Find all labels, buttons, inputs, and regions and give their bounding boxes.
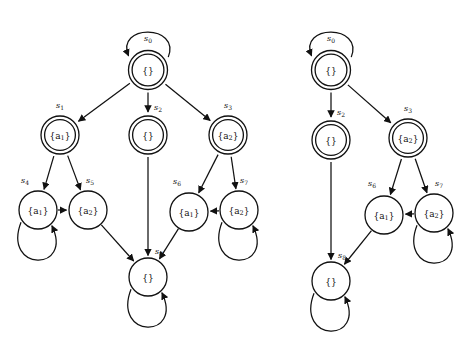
node-set-label: {a2}: [398, 134, 419, 145]
node-right-automaton-s8[interactable]: {}: [312, 262, 350, 300]
edge-s1-to-s4: [44, 156, 54, 189]
node-left-automaton-s7[interactable]: {a2}: [220, 191, 258, 229]
node-right-automaton-s7[interactable]: {a2}: [415, 194, 453, 232]
node-left-automaton-s1[interactable]: {a1}: [41, 116, 79, 154]
edge-s1-to-s5: [68, 156, 81, 190]
node-set-label: {}: [325, 66, 336, 76]
state-name-label-s6: s6: [173, 177, 181, 187]
node-set-label: {a1}: [179, 208, 200, 219]
state-name-label-s7: s7: [435, 179, 443, 189]
node-right-automaton-s3[interactable]: {a2}: [389, 119, 427, 157]
node-set-label: {}: [142, 273, 153, 283]
node-right-automaton-s2[interactable]: {}: [312, 121, 350, 159]
state-name-label-s8: s8: [155, 247, 163, 257]
state-name-label-s0: s0: [327, 34, 335, 44]
state-name-label-s3: s3: [224, 101, 232, 111]
edge-s3-to-s6: [199, 155, 218, 193]
node-set-label: {a2}: [229, 206, 250, 217]
edge-s3-to-s6: [390, 159, 401, 194]
edges-layer: [18, 32, 452, 331]
node-left-automaton-s3[interactable]: {a2}: [209, 116, 247, 154]
node-set-label: {a1}: [374, 211, 395, 222]
node-set-label: {a1}: [28, 206, 49, 217]
node-set-label: {}: [325, 277, 336, 287]
edge-s0-to-s1: [79, 83, 130, 121]
edge-s0-to-s3: [165, 84, 210, 120]
state-name-label-s4: s4: [21, 176, 29, 186]
edge-s3-to-s7: [415, 159, 427, 193]
node-set-label: {}: [142, 131, 153, 141]
node-right-automaton-s0[interactable]: {}: [312, 51, 351, 90]
node-left-automaton-s6[interactable]: {a1}: [170, 193, 208, 231]
node-left-automaton-s0[interactable]: {}: [129, 51, 168, 90]
node-set-label: {}: [142, 66, 153, 76]
nodes-layer: {}{a1}{}{a2}{a1}{a2}{a1}{a2}{}{}{}{a2}{a…: [19, 51, 453, 301]
node-right-automaton-s6[interactable]: {a1}: [365, 196, 403, 234]
edge-s0-to-s3: [348, 85, 391, 123]
state-name-label-s3: s3: [404, 104, 412, 114]
state-name-label-s6: s6: [368, 179, 376, 189]
node-left-automaton-s5[interactable]: {a2}: [69, 191, 107, 229]
state-name-label-s1: s1: [56, 101, 64, 111]
edge-s3-to-s7: [231, 157, 236, 189]
node-set-label: {a2}: [424, 209, 445, 220]
node-left-automaton-s2[interactable]: {}: [129, 116, 167, 154]
node-set-label: {a1}: [50, 131, 71, 142]
node-left-automaton-s8[interactable]: {}: [129, 258, 167, 296]
state-name-label-s5: s5: [86, 176, 94, 186]
edge-s5-to-s8: [101, 225, 133, 261]
state-name-label-s2: s2: [154, 103, 162, 113]
state-name-label-s8: s8: [338, 251, 346, 261]
state-name-label-s0: s0: [144, 34, 152, 44]
node-set-label: {}: [325, 136, 336, 146]
node-set-label: {a2}: [78, 206, 99, 217]
node-left-automaton-s4[interactable]: {a1}: [19, 191, 57, 229]
node-set-label: {a2}: [218, 131, 239, 142]
automata-diagram: {}{a1}{}{a2}{a1}{a2}{a1}{a2}{}{}{}{a2}{a…: [0, 0, 472, 339]
state-name-label-s7: s7: [240, 176, 248, 186]
edge-s6-to-s8: [344, 231, 371, 265]
figure-canvas: {}{a1}{}{a2}{a1}{a2}{a1}{a2}{}{}{}{a2}{a…: [0, 0, 472, 339]
state-name-label-s2: s2: [337, 108, 345, 118]
